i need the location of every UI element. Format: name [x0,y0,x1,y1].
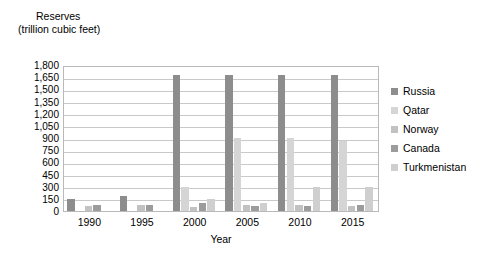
legend-swatch-icon [391,126,398,133]
bar-norway-2005 [243,205,251,211]
y-axis-tick-label: 450 [1,171,59,181]
bar-canada-2005 [251,206,259,211]
bar-turkmenistan-2000 [207,199,215,211]
bar-russia-2015 [331,75,339,211]
plot-area [63,66,379,212]
legend-label: Qatar [403,105,429,116]
bar-norway-2000 [190,207,198,211]
bar-canada-1995 [146,205,154,211]
bar-qatar-2015 [339,141,347,211]
bar-turkmenistan-2005 [260,203,268,211]
bar-canada-1990 [93,205,101,211]
legend-label: Norway [403,124,439,135]
y-axis-tick-label: 600 [1,158,59,168]
y-axis-tick-label: 150 [1,195,59,205]
legend-swatch-icon [391,88,398,95]
y-axis-tick-label: 1,500 [1,85,59,95]
legend-swatch-icon [391,164,398,171]
y-axis-tick-label: 300 [1,183,59,193]
y-axis-tick-labels: 01503004506007509001,0501,2001,3501,5001… [0,66,59,212]
bar-canada-2015 [357,205,365,211]
y-axis-tick-label: 750 [1,146,59,156]
x-axis-tick-label: 2015 [326,216,379,228]
y-axis-tick-label: 1,650 [1,73,59,83]
bar-norway-2010 [295,205,303,211]
legend-label: Russia [403,86,435,97]
bar-norway-1995 [137,205,145,211]
reserves-bar-chart: Reserves (trillion cubic feet) 015030045… [0,0,487,271]
bar-russia-2000 [173,75,181,211]
x-axis-tick-labels: 199019952000200520102015 [63,216,379,230]
legend-item-norway[interactable]: Norway [391,120,466,139]
legend-swatch-icon [391,107,398,114]
bar-norway-1990 [85,206,93,211]
legend-item-canada[interactable]: Canada [391,139,466,158]
chart-subtitle: (trillion cubic feet) [18,23,100,36]
y-axis-tick-label: 1,050 [1,122,59,132]
bar-russia-1990 [67,199,75,211]
x-axis-tick-label: 2005 [221,216,274,228]
y-axis-tick-label: 1,200 [1,110,59,120]
chart-title-block: Reserves (trillion cubic feet) [18,10,100,36]
legend-label: Canada [403,143,440,154]
legend-item-russia[interactable]: Russia [391,82,466,101]
bar-canada-2010 [304,206,312,211]
bar-norway-2015 [348,206,356,211]
bar-turkmenistan-2010 [313,187,321,211]
legend-item-turkmenistan[interactable]: Turkmenistan [391,158,466,177]
y-axis-tick-label: 900 [1,134,59,144]
bar-qatar-2000 [181,187,189,211]
x-axis-title: Year [63,233,379,245]
bar-qatar-2005 [234,138,242,211]
bar-russia-2005 [225,75,233,211]
x-axis-tick-label: 2000 [168,216,221,228]
legend-item-qatar[interactable]: Qatar [391,101,466,120]
bar-qatar-2010 [287,138,295,211]
bar-turkmenistan-2015 [365,187,373,211]
x-axis-tick-label: 1990 [63,216,116,228]
x-axis-tick-label: 1995 [116,216,169,228]
chart-title: Reserves [18,10,100,23]
chart-legend: RussiaQatarNorwayCanadaTurkmenistan [391,82,466,177]
bar-russia-1995 [120,196,128,211]
legend-label: Turkmenistan [403,162,466,173]
bar-russia-2010 [278,75,286,211]
bar-canada-2000 [199,203,207,211]
x-axis-tick-label: 2010 [274,216,327,228]
y-axis-tick-label: 1,800 [1,61,59,71]
y-axis-tick-label: 0 [1,207,59,217]
y-axis-tick-label: 1,350 [1,98,59,108]
legend-swatch-icon [391,145,398,152]
bars-layer [64,67,378,211]
